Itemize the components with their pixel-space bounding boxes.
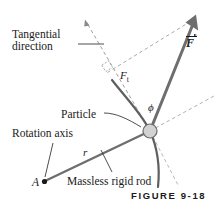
label-point-a: A bbox=[32, 176, 39, 188]
label-rotation-axis: Rotation axis bbox=[12, 127, 73, 139]
leader-line-rod bbox=[101, 150, 112, 172]
label-tangential-direction: Tangential direction bbox=[12, 28, 60, 53]
label-force-text: F bbox=[186, 36, 194, 50]
tangential-arrowhead bbox=[84, 20, 89, 27]
label-angle-phi: ϕ bbox=[148, 102, 154, 114]
label-force-tangential-subscript: t bbox=[127, 75, 129, 84]
right-angle-marker bbox=[102, 61, 113, 72]
label-tangential-line1: Tangential bbox=[12, 28, 60, 40]
rotation-axis-point bbox=[42, 179, 47, 184]
vector-arrow-icon bbox=[186, 34, 197, 38]
force-projection-dashed-line bbox=[108, 18, 197, 73]
label-radius-r: r bbox=[83, 147, 87, 159]
label-force-tangential-text: F bbox=[120, 69, 127, 81]
radial-extension-dashed-line bbox=[150, 96, 214, 131]
figure-caption: FIGURE 9-18 bbox=[131, 190, 206, 201]
label-tangential-line2: direction bbox=[12, 40, 60, 52]
leader-line-rotation-axis bbox=[45, 143, 53, 177]
figure-9-18: Tangential direction Particle Rotation a… bbox=[0, 0, 217, 210]
label-particle: Particle bbox=[61, 108, 96, 120]
label-massless-rigid-rod: Massless rigid rod bbox=[67, 175, 151, 187]
particle-circle bbox=[143, 124, 157, 138]
label-force-tangential: Ft bbox=[120, 70, 129, 84]
leader-line-particle bbox=[104, 113, 141, 127]
label-force-vector: F bbox=[186, 34, 197, 50]
